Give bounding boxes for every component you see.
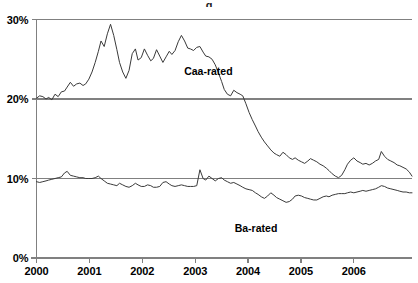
chart-container: g 30%20%10%0% 20002001200220032004200520… — [0, 0, 418, 283]
y-tick-label: 10% — [0, 173, 29, 185]
series-line-ba-rated — [37, 170, 413, 203]
axis-ticks — [32, 20, 354, 264]
series-lines — [37, 24, 413, 202]
series-line-caa-rated — [37, 24, 413, 177]
y-tick-label: 20% — [0, 93, 29, 105]
gridlines — [37, 20, 413, 179]
x-tick-label: 2004 — [236, 265, 260, 277]
x-tick-label: 2006 — [342, 265, 366, 277]
x-tick-label: 2002 — [130, 265, 154, 277]
y-tick-label: 0% — [0, 252, 29, 264]
y-tick-label: 30% — [0, 14, 29, 26]
x-tick-label: 2005 — [289, 265, 313, 277]
chart-plot-area — [0, 0, 418, 283]
x-tick-label: 2001 — [77, 265, 101, 277]
x-tick-label: 2000 — [24, 265, 48, 277]
axis-lines — [31, 20, 413, 259]
series-label-ba-rated: Ba-rated — [235, 222, 278, 234]
series-label-caa-rated: Caa-rated — [184, 65, 232, 77]
x-tick-label: 2003 — [183, 265, 207, 277]
